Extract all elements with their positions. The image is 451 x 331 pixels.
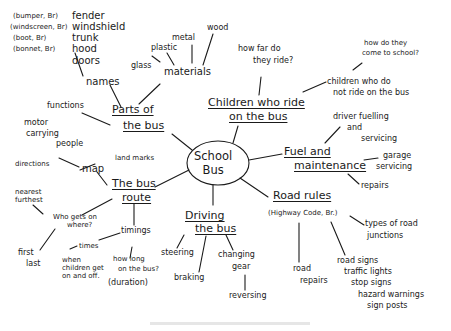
duration: (duration) bbox=[108, 279, 148, 287]
center-line2: Bus bbox=[194, 163, 232, 177]
branch-fuel-title2: maintenance bbox=[294, 160, 366, 171]
branch-parts-title2: the bus bbox=[123, 120, 164, 131]
driver-fuelling-line1: driver fuelling bbox=[333, 113, 389, 121]
name-item: trunk bbox=[72, 33, 99, 43]
branch-driving-title1: Driving bbox=[185, 210, 225, 221]
map-node: map bbox=[82, 164, 104, 174]
when-line1: when bbox=[62, 257, 81, 264]
sign-item: traffic lights bbox=[344, 268, 392, 276]
center-topic: School Bus bbox=[194, 149, 232, 178]
name-item: fender bbox=[72, 11, 105, 21]
junctions-line1: types of road bbox=[365, 220, 418, 228]
last: last bbox=[26, 260, 40, 268]
road-repairs-line1: road bbox=[293, 265, 311, 273]
function-item: carrying bbox=[26, 130, 59, 138]
branch-route-title2: route bbox=[122, 192, 151, 203]
function-item: people bbox=[56, 140, 83, 148]
not-ride-line1: children who do bbox=[327, 78, 391, 86]
function-item: motor bbox=[24, 119, 48, 127]
sign-item: stop signs bbox=[351, 279, 392, 287]
branch-children-title2: on the bus bbox=[229, 111, 287, 122]
who-gets-on-line2: where? bbox=[67, 222, 92, 229]
branch-parts-title1: Parts of bbox=[112, 104, 154, 115]
branch-children-title1: Children who ride bbox=[208, 97, 305, 108]
directions: directions bbox=[15, 161, 49, 168]
braking: braking bbox=[174, 274, 204, 282]
road-repairs-line2: repairs bbox=[300, 277, 328, 285]
branch-fuel-title1: Fuel and bbox=[284, 146, 331, 157]
how-long-line1: how long bbox=[113, 256, 145, 263]
when-line2: children get bbox=[62, 265, 104, 272]
furthest: furthest bbox=[15, 197, 43, 204]
when-line3: on and off. bbox=[62, 273, 100, 280]
junctions-line2: junctions bbox=[367, 232, 403, 240]
branch-route-title1: The bus bbox=[112, 178, 156, 189]
sign-item: sign posts bbox=[367, 302, 408, 310]
driver-fuelling-line3: servicing bbox=[361, 135, 397, 143]
british-term: (windscreen, Br) bbox=[10, 24, 67, 31]
material-item: wood bbox=[207, 24, 228, 32]
nearest: nearest bbox=[15, 189, 41, 196]
how-long-line2: on the bus? bbox=[118, 266, 159, 273]
landmarks: land marks bbox=[115, 155, 154, 162]
mind-map-canvas: School Bus Parts of the bus names fender… bbox=[0, 0, 451, 331]
steering: steering bbox=[161, 249, 194, 257]
name-item: windshield bbox=[72, 22, 125, 32]
material-item: glass bbox=[131, 62, 152, 70]
branch-driving-title2: the bus bbox=[195, 223, 236, 234]
times: times bbox=[79, 243, 98, 250]
names-node: names bbox=[86, 77, 120, 87]
materials-node: materials bbox=[164, 67, 211, 77]
faint-caption-bar bbox=[150, 322, 310, 325]
fuel-repairs: repairs bbox=[361, 182, 389, 190]
branch-road-title: Road rules bbox=[273, 190, 331, 201]
material-item: metal bbox=[172, 34, 195, 42]
not-ride-line2: not ride on the bus bbox=[333, 89, 409, 97]
garage-line1: garage bbox=[383, 152, 411, 160]
center-line1: School bbox=[194, 149, 232, 163]
road-subtitle: (Highway Code, Br.) bbox=[268, 210, 338, 217]
british-term: (boot, Br) bbox=[13, 35, 46, 42]
how-come-line2: come to school? bbox=[362, 50, 419, 57]
british-term: (bumper, Br) bbox=[13, 13, 58, 20]
changing-gear-line1: changing bbox=[218, 251, 255, 259]
how-far-line2: they ride? bbox=[253, 57, 293, 65]
how-far-line1: how far do bbox=[238, 45, 281, 53]
sign-item: hazard warnings bbox=[358, 291, 424, 299]
name-item: hood bbox=[72, 44, 97, 54]
name-item: doors bbox=[72, 56, 100, 66]
material-item: plastic bbox=[151, 44, 177, 52]
changing-gear-line2: gear bbox=[232, 263, 250, 271]
how-come-line1: how do they bbox=[364, 40, 407, 47]
reversing: reversing bbox=[229, 292, 267, 300]
british-term: (bonnet, Br) bbox=[13, 46, 55, 53]
who-gets-on-line1: Who gets on bbox=[53, 214, 97, 221]
first: first bbox=[18, 249, 34, 257]
garage-line2: servicing bbox=[376, 163, 412, 171]
driver-fuelling-line2: and bbox=[347, 124, 362, 132]
timings: timings bbox=[121, 227, 151, 235]
sign-item: road signs bbox=[337, 257, 378, 265]
functions-node: functions bbox=[47, 102, 84, 110]
